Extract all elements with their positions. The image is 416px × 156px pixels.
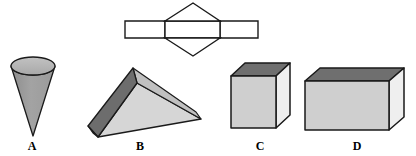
rectangular-prism-shape (305, 68, 404, 130)
cube-front-face (231, 76, 276, 128)
shape-label-c: C (256, 140, 265, 152)
net-right-rect (220, 21, 258, 38)
box-top-face (305, 68, 404, 81)
cone-top-ellipse (11, 57, 55, 75)
net-bottom-triangle (165, 38, 220, 56)
cone-body (11, 66, 55, 136)
cone-shape (11, 57, 55, 136)
hexagonal-net (125, 3, 258, 56)
geometry-figure-canvas: A B C D (0, 0, 416, 156)
triangular-prism-shape (88, 68, 201, 137)
cube-shape (231, 63, 290, 128)
box-front-face (305, 81, 389, 130)
geometry-figure-svg (0, 0, 416, 156)
shape-label-d: D (353, 140, 362, 152)
net-top-triangle (165, 3, 220, 21)
net-middle-rect (165, 21, 220, 38)
shape-label-b: B (136, 140, 144, 152)
net-left-rect (125, 21, 165, 38)
shape-label-a: A (28, 140, 37, 152)
